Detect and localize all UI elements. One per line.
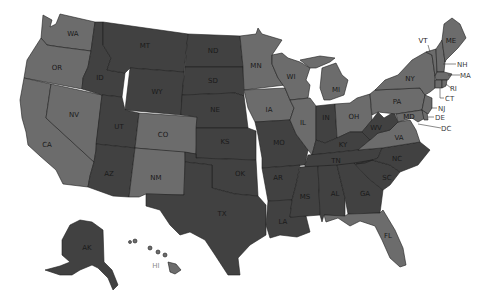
leader-ct [440,88,444,98]
label-nv: NV [69,111,79,119]
label-wa: WA [67,30,79,38]
label-mt: MT [140,42,151,50]
label-co: CO [158,131,169,139]
label-il: IL [300,119,306,127]
state-nm[interactable] [129,148,185,197]
label-mi: MI [332,86,340,94]
label-wy: WY [151,88,163,96]
label-nd: ND [208,47,219,55]
label-ca: CA [42,141,52,149]
label-ct: CT [445,95,455,103]
label-vt: VT [418,37,428,45]
label-md: MD [403,113,414,121]
label-nm: NM [150,174,161,182]
label-la: LA [279,218,288,226]
label-in: IN [322,114,329,122]
label-tn: TN [330,157,341,165]
state-ct[interactable] [435,80,442,88]
label-az: AZ [104,170,114,178]
label-wv: WV [370,124,382,132]
us-map: WA OR CA NV ID MT WY UT AZ CO NM ND SD N… [0,0,489,306]
label-ok: OK [235,170,246,178]
label-sc: SC [382,174,391,182]
label-ia: IA [266,106,273,114]
label-wi: WI [287,73,296,81]
label-de: DE [435,114,445,122]
label-ks: KS [220,138,230,146]
label-tx: TX [216,210,226,218]
label-me: ME [446,37,456,45]
label-sd: SD [208,77,218,85]
label-ga: GA [360,190,370,198]
label-ky: KY [339,141,348,149]
label-ne: NE [210,106,220,114]
label-pa: PA [393,98,402,106]
label-ri: RI [450,85,457,93]
state-ma[interactable] [435,72,452,80]
label-nc: NC [392,155,402,163]
label-ar: AR [273,174,283,182]
label-nj: NJ [438,105,445,113]
label-oh: OH [349,113,360,121]
label-hi: HI [152,262,159,270]
label-va: VA [394,134,403,142]
label-ny: NY [405,75,415,83]
label-mo: MO [273,139,285,147]
label-id: ID [96,74,103,82]
label-mn: MN [250,62,261,70]
label-ut: UT [114,123,124,131]
label-dc: DC [441,125,451,133]
label-or: OR [52,64,63,72]
state-in[interactable] [316,104,337,143]
label-ma: MA [460,72,471,80]
label-fl: FL [384,232,392,240]
state-ak[interactable] [45,220,118,290]
label-al: AL [331,190,340,198]
leader-dc [418,124,441,128]
state-ia[interactable] [244,88,294,122]
label-nh: NH [457,61,468,69]
label-ak: AK [82,244,92,252]
state-fl[interactable] [324,210,406,267]
state-ny[interactable] [375,52,435,95]
label-ms: MS [300,193,311,201]
